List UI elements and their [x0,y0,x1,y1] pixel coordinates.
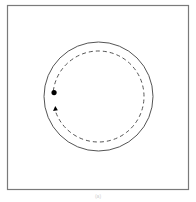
start-dot-marker [51,90,56,95]
diagram-frame [8,6,189,190]
outer-circle [44,42,153,151]
circular-path-diagram [0,0,196,202]
figure-caption: (a) [0,192,196,200]
dashed-circular-path [53,51,144,142]
diagram-stage: (a) [0,0,196,202]
direction-arrow-icon [53,106,58,111]
